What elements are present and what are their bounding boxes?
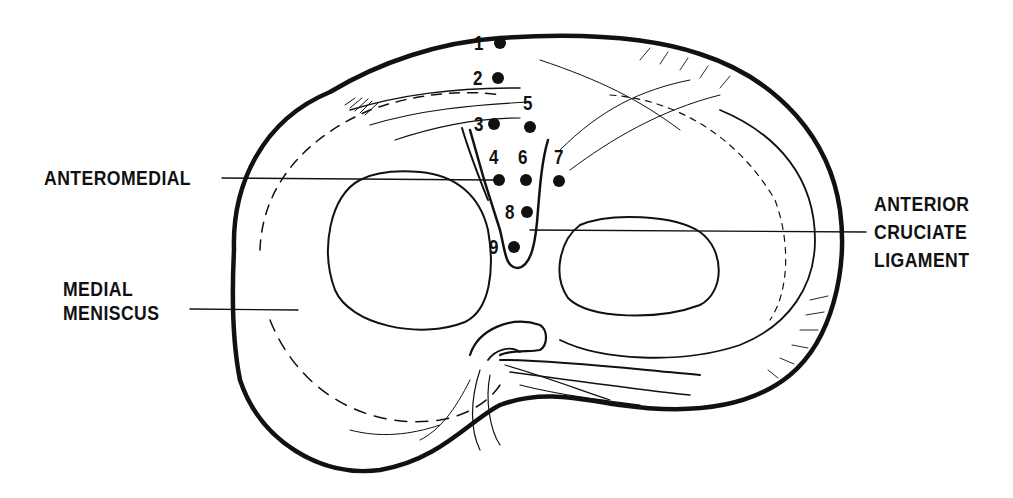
point-4-label: 4 <box>489 147 498 167</box>
point-7-label: 7 <box>554 147 563 167</box>
label-medial-meniscus-line1: MEDIAL <box>63 277 159 301</box>
point-6-label: 6 <box>518 147 527 167</box>
point-3-label: 3 <box>474 114 483 134</box>
point-1-label: 1 <box>474 33 483 53</box>
point-5-dot <box>524 121 536 133</box>
label-acl-line1: ANTERIOR <box>874 190 969 218</box>
point-7-dot <box>553 175 565 187</box>
footprint-points <box>488 37 565 253</box>
point-9-label: 9 <box>489 237 498 257</box>
point-5-label: 5 <box>523 93 532 113</box>
leader-acl <box>530 230 866 232</box>
point-9-dot <box>508 241 520 253</box>
label-anterior-cruciate-ligament: ANTERIOR CRUCIATE LIGAMENT <box>874 190 969 274</box>
tibial-plateau-diagram: 1 2 3 4 5 6 7 8 9 ANTEROMEDIAL MEDIAL ME… <box>0 0 1013 498</box>
label-acl-line2: CRUCIATE <box>874 218 969 246</box>
leader-medial-meniscus <box>190 309 298 310</box>
plateau-outline <box>233 36 842 471</box>
point-4-dot <box>493 174 505 186</box>
point-3-dot <box>488 118 500 130</box>
point-2-label: 2 <box>473 68 482 88</box>
label-medial-meniscus-line2: MENISCUS <box>63 301 159 325</box>
point-8-dot <box>521 206 533 218</box>
medial-articular-surface <box>328 171 491 329</box>
point-6-dot <box>520 174 532 186</box>
label-acl-line3: LIGAMENT <box>874 246 969 274</box>
leader-anteromedial <box>222 178 494 180</box>
point-1-dot <box>494 37 506 49</box>
anatomy-drawing <box>0 0 1013 498</box>
point-2-dot <box>492 72 504 84</box>
point-8-label: 8 <box>505 202 514 222</box>
lateral-articular-surface <box>559 217 718 316</box>
label-anteromedial: ANTEROMEDIAL <box>44 166 191 190</box>
label-medial-meniscus: MEDIAL MENISCUS <box>63 277 159 325</box>
